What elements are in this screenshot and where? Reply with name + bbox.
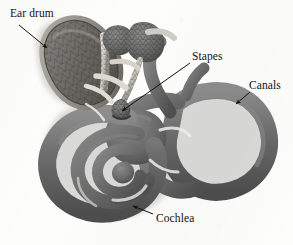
label-canals: Canals xyxy=(249,80,281,92)
ear-drum-leader xyxy=(19,25,47,48)
canals-leader xyxy=(236,92,250,104)
ear-anatomy-figure: Ear drum Stapes Canals Cochlea xyxy=(0,0,293,245)
label-cochlea: Cochlea xyxy=(156,213,194,225)
label-arrows xyxy=(0,0,293,245)
label-ear-drum: Ear drum xyxy=(10,8,54,20)
stapes-leader xyxy=(122,63,190,111)
label-stapes: Stapes xyxy=(192,51,223,63)
cochlea-leader xyxy=(133,206,153,214)
